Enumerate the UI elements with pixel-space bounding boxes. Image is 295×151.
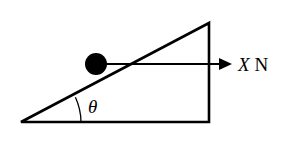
force-label: XN <box>237 54 269 75</box>
force-unit: N <box>255 54 269 75</box>
angle-label: θ <box>88 96 97 117</box>
angle-arc <box>75 97 81 122</box>
force-variable: X <box>237 54 251 75</box>
ball <box>85 53 107 75</box>
incline-diagram: θ XN <box>0 0 295 151</box>
force-arrowhead-icon <box>219 58 232 70</box>
inclined-plane <box>21 23 209 122</box>
